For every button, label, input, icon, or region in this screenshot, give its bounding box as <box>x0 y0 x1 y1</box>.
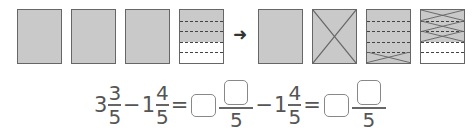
term1-whole: 3 <box>94 95 107 116</box>
cross-out-icon <box>421 21 464 32</box>
term3-whole: 1 <box>274 95 287 116</box>
subtraction-equation: 3 3 5 − 1 4 5 = 5 − 1 4 5 = 5 <box>94 79 387 131</box>
whole-box-2 <box>71 9 116 64</box>
cross-out-icon <box>421 10 464 21</box>
cross-out-icon <box>313 10 356 63</box>
result-numerator-answer-box[interactable] <box>357 80 381 105</box>
fifths-box-3-shaded <box>179 9 224 64</box>
term2-fraction: 4 5 <box>156 82 169 127</box>
term2-whole: 1 <box>142 95 155 116</box>
equals-sign: = <box>171 93 189 117</box>
equals-sign: = <box>303 93 321 117</box>
arrow-right-icon: ➜ <box>233 24 247 44</box>
fifths-box-3-crossed <box>420 9 465 64</box>
whole-box-1 <box>17 9 62 64</box>
cross-out-icon <box>367 52 410 63</box>
result-fraction: 5 <box>352 79 386 130</box>
step1-numerator-answer-box[interactable] <box>224 80 248 105</box>
whole-box-4 <box>258 9 303 64</box>
fifths-box-5-shaded-1-crossed <box>366 9 411 64</box>
minus-sign: − <box>255 93 273 117</box>
minus-sign: − <box>123 93 141 117</box>
result-whole-answer-box[interactable] <box>324 94 349 117</box>
step1-whole-answer-box[interactable] <box>191 94 216 117</box>
whole-box-3 <box>125 9 170 64</box>
term1-fraction: 3 5 <box>108 82 121 127</box>
whole-box-crossed <box>312 9 357 64</box>
step1-fraction: 5 <box>219 79 253 130</box>
cross-out-icon <box>421 31 464 42</box>
term3-fraction: 4 5 <box>288 82 301 127</box>
